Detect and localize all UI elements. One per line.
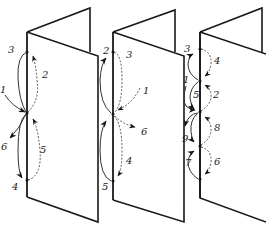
panel-2-label-3: 3 <box>126 49 132 60</box>
panel-3-node-b <box>199 80 202 83</box>
panel-1-back-flap <box>27 8 90 52</box>
panel-1-arrow-2 <box>28 56 38 112</box>
panel-2-node-mid <box>112 113 115 116</box>
panel-3-label-8: 8 <box>214 122 220 133</box>
panel-2-arrow-1 <box>118 88 140 110</box>
panel-2-arrow-4 <box>114 116 122 176</box>
panel-2-back-flap <box>113 10 175 52</box>
panel-3: 3 4 1 2 5 8 9 6 7 <box>182 8 266 222</box>
panel-2-front-flap <box>113 32 184 222</box>
panel-2-arrow-6 <box>115 116 135 127</box>
panel-3-arrow-3 <box>188 54 198 80</box>
panel-2-label-4: 4 <box>125 155 132 166</box>
panel-2-arrow-2 <box>100 58 111 113</box>
panel-3-label-3: 3 <box>184 43 190 54</box>
panel-1: 3 2 1 6 5 4 <box>0 8 98 222</box>
panel-2-label-1: 1 <box>143 85 149 96</box>
panel-1-front-flap <box>27 32 98 222</box>
panel-2-label-6: 6 <box>141 126 148 137</box>
panel-3-front-flap <box>200 32 266 222</box>
panel-1-label-4: 4 <box>11 181 18 192</box>
panel-3-arrow-c-to-d <box>191 114 197 142</box>
panel-2-arrow-3 <box>114 52 122 112</box>
panel-3-arrow-4 <box>201 49 211 76</box>
panel-2: 2 3 1 6 4 5 <box>100 10 184 222</box>
panel-2-label-5: 5 <box>102 181 108 192</box>
panel-1-label-5: 5 <box>40 144 46 155</box>
panel-2-node-bottom <box>112 180 115 183</box>
panel-3-node-e <box>199 178 202 181</box>
panel-1-arrow-4 <box>18 114 26 178</box>
panel-3-back-flap <box>200 8 262 52</box>
panel-3-label-4: 4 <box>213 55 220 66</box>
panel-3-arrow-2 <box>201 85 211 111</box>
panel-2-arrow-5 <box>100 121 111 181</box>
panel-1-arrow-5 <box>28 119 40 180</box>
panel-2-label-2: 2 <box>102 45 109 56</box>
panel-1-label-1: 1 <box>0 84 6 95</box>
diagram-canvas: 3 2 1 6 5 4 2 3 1 6 4 5 <box>0 0 266 228</box>
panel-1-arrow-3 <box>18 52 27 112</box>
panel-1-label-6: 6 <box>1 141 8 152</box>
panel-1-arrow-6 <box>10 114 26 138</box>
panel-3-arrow-8 <box>201 117 211 145</box>
panel-1-label-2: 2 <box>41 69 48 80</box>
panel-3-label-1: 1 <box>183 74 189 85</box>
panel-3-label-7: 7 <box>185 157 192 168</box>
panel-3-label-5: 5 <box>193 89 199 100</box>
panel-3-label-6: 6 <box>214 156 221 167</box>
panel-3-label-9: 9 <box>182 133 189 144</box>
panel-3-arrow-6 <box>201 147 211 174</box>
panel-1-label-3: 3 <box>8 44 14 55</box>
panel-3-label-2: 2 <box>212 89 219 100</box>
